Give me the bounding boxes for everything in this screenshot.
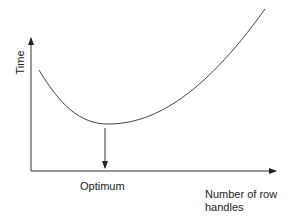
- time-curve: [39, 9, 265, 124]
- y-axis-label: Time: [14, 48, 27, 78]
- x-axis-label: Number of row handles: [205, 188, 295, 214]
- optimum-label: Optimum: [80, 180, 125, 193]
- diagram-canvas: [0, 0, 297, 219]
